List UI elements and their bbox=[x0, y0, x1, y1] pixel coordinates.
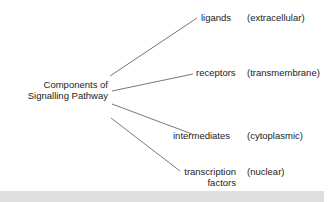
branch-ligands-location: (extracellular) bbox=[247, 12, 305, 23]
branch-intermediates-location: (cytoplasmic) bbox=[247, 130, 303, 141]
connector-lines bbox=[0, 0, 336, 202]
bottom-band bbox=[0, 191, 324, 202]
root-line1: Components of bbox=[0, 79, 108, 90]
branch-receptors-location: (transmembrane) bbox=[247, 67, 320, 78]
root-line2: Signalling Pathway bbox=[0, 90, 108, 101]
branch-receptors-label: receptors bbox=[196, 67, 236, 78]
line-receptors bbox=[112, 74, 193, 91]
branch-intermediates-label: intermediates bbox=[173, 130, 230, 141]
branch-transcription-label: transcription factors bbox=[180, 166, 236, 188]
branch-transcription-location: (nuclear) bbox=[247, 166, 285, 177]
line-ligands bbox=[110, 18, 197, 76]
root-node: Components of Signalling Pathway bbox=[0, 79, 108, 101]
branch-ligands-label: ligands bbox=[201, 12, 231, 23]
